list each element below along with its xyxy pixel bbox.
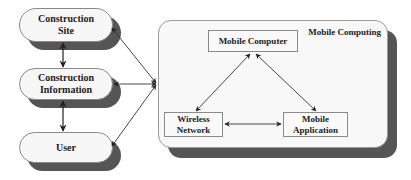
mobile-application-node: Mobile Application: [283, 112, 348, 137]
diagram-canvas: Construction Site Construction Informati…: [0, 0, 411, 180]
construction-information-label-line1: Construction: [38, 72, 94, 84]
construction-site-label-line1: Construction: [38, 13, 94, 25]
construction-site-label-line2: Site: [38, 25, 94, 37]
wireless-network-label-line1: Wireless: [177, 114, 211, 125]
wireless-network-node: Wireless Network: [164, 112, 223, 137]
construction-information-label-line2: Information: [38, 84, 94, 96]
wireless-network-label-line2: Network: [177, 125, 211, 136]
mobile-computer-label: Mobile Computer: [219, 36, 288, 47]
user-node: User: [19, 132, 113, 163]
construction-information-node: Construction Information: [19, 68, 113, 100]
mobile-computer-node: Mobile Computer: [208, 30, 298, 52]
user-label: User: [56, 142, 76, 154]
mobile-application-label-line2: Application: [293, 125, 338, 136]
mobile-computing-title: Mobile Computing: [308, 27, 381, 37]
construction-site-node: Construction Site: [19, 8, 113, 42]
mobile-application-label-line1: Mobile: [293, 114, 338, 125]
